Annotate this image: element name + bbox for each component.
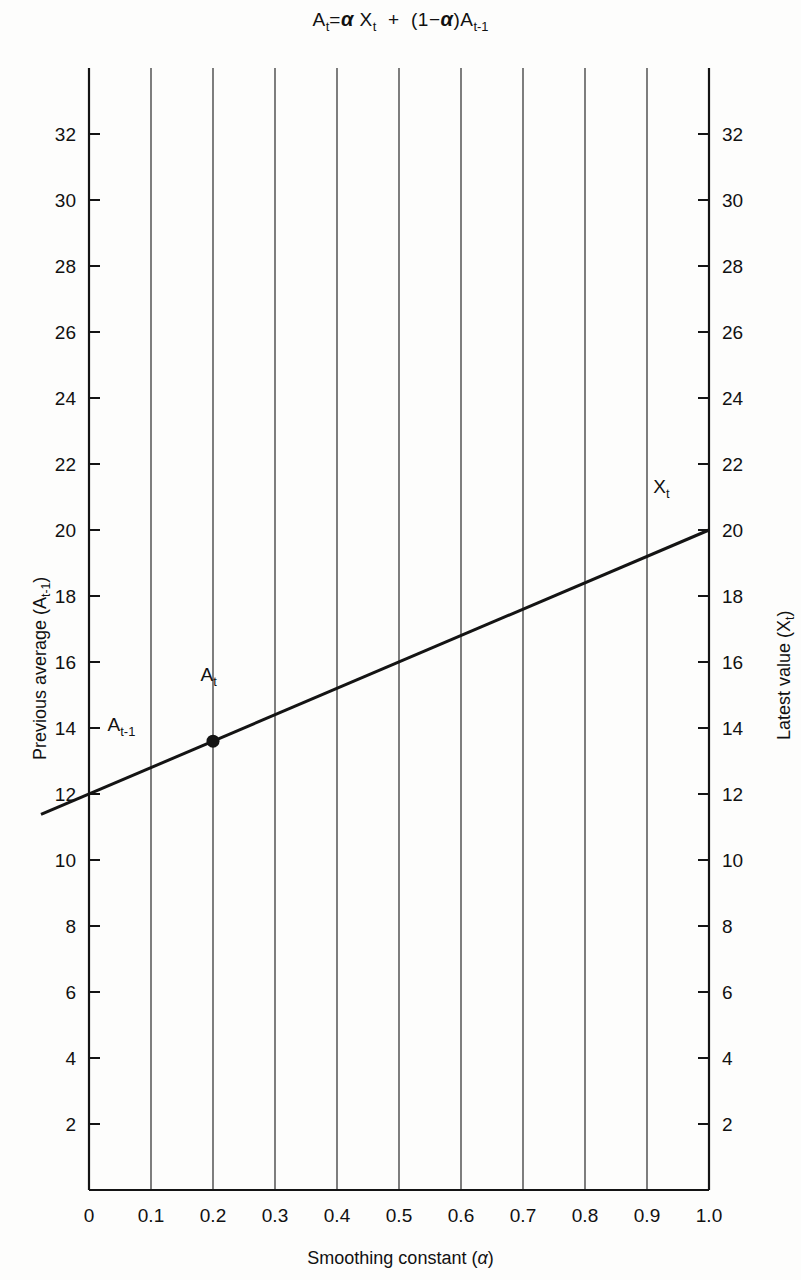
x-axis-tick-label: 0.9 xyxy=(634,1206,660,1225)
y-axis-left-tick-label: 28 xyxy=(26,257,76,276)
y-axis-right-tick-label: 12 xyxy=(722,785,772,804)
y-axis-left-tick-label: 6 xyxy=(26,983,76,1002)
y-axis-right-tick-label: 4 xyxy=(722,1049,772,1068)
x-axis-tick-label: 0.7 xyxy=(510,1206,536,1225)
y-axis-right-tick-label: 16 xyxy=(722,653,772,672)
data-point-markers xyxy=(207,735,220,748)
chart-plot-area xyxy=(0,0,801,1280)
y-axis-left-tick-label: 22 xyxy=(26,455,76,474)
y-axis-right-tick-label: 28 xyxy=(722,257,772,276)
y-axis-left-tick-label: 10 xyxy=(26,851,76,870)
x-axis-tick-label: 0.5 xyxy=(386,1206,412,1225)
y-axis-right-tick-label: 20 xyxy=(722,521,772,540)
y-axis-right-tick-label: 24 xyxy=(722,389,772,408)
gridlines-group xyxy=(151,68,647,1190)
y-axis-left-tick-label: 8 xyxy=(26,917,76,936)
y-axis-left-tick-label: 20 xyxy=(26,521,76,540)
data-point-a-t xyxy=(207,735,220,748)
y-axis-right-tick-label: 22 xyxy=(722,455,772,474)
figure-page: At=α Xt + (1−α)At-1 24681012141618202224… xyxy=(0,0,801,1280)
y-axis-right-tick-label: 26 xyxy=(722,323,772,342)
y-axis-right-title: Latest value (Xt) xyxy=(774,611,797,740)
y-axis-right-tick-label: 14 xyxy=(722,719,772,738)
y-axis-left-tick-label: 26 xyxy=(26,323,76,342)
y-axis-right-tick-label: 8 xyxy=(722,917,772,936)
x-axis-tick-label: 0.4 xyxy=(324,1206,350,1225)
y-axis-right-tick-label: 2 xyxy=(722,1115,772,1134)
data-line-group xyxy=(41,530,709,814)
x-axis-tick-label: 0.8 xyxy=(572,1206,598,1225)
annotation-a-t-minus-1: At-1 xyxy=(108,714,136,739)
y-axis-left-title: Previous average (At-1) xyxy=(30,577,53,760)
y-axis-right-tick-label: 6 xyxy=(722,983,772,1002)
x-axis-tick-label: 0.1 xyxy=(138,1206,164,1225)
x-axis-tick-label: 0.3 xyxy=(262,1206,288,1225)
x-axis-tick-label: 0 xyxy=(84,1206,95,1225)
y-axis-left-tick-label: 2 xyxy=(26,1115,76,1134)
y-axis-right-tick-label: 10 xyxy=(722,851,772,870)
y-axis-left-tick-label: 12 xyxy=(26,785,76,804)
y-axis-right-tick-label: 18 xyxy=(722,587,772,606)
y-axis-right-tick-label: 32 xyxy=(722,125,772,144)
data-line-primary xyxy=(41,530,709,814)
y-axis-left-tick-label: 24 xyxy=(26,389,76,408)
y-axis-left-tick-label: 32 xyxy=(26,125,76,144)
y-axis-left-tick-label: 30 xyxy=(26,191,76,210)
annotation-a-t: At xyxy=(201,664,217,689)
x-axis-tick-label: 0.6 xyxy=(448,1206,474,1225)
x-axis-tick-label: 0.2 xyxy=(200,1206,226,1225)
y-axis-right-tick-label: 30 xyxy=(722,191,772,210)
x-axis-title: Smoothing constant (α) xyxy=(0,1248,801,1269)
y-axis-left-tick-label: 4 xyxy=(26,1049,76,1068)
annotation-x-t: Xt xyxy=(653,476,669,501)
x-axis-tick-label: 1.0 xyxy=(696,1206,722,1225)
